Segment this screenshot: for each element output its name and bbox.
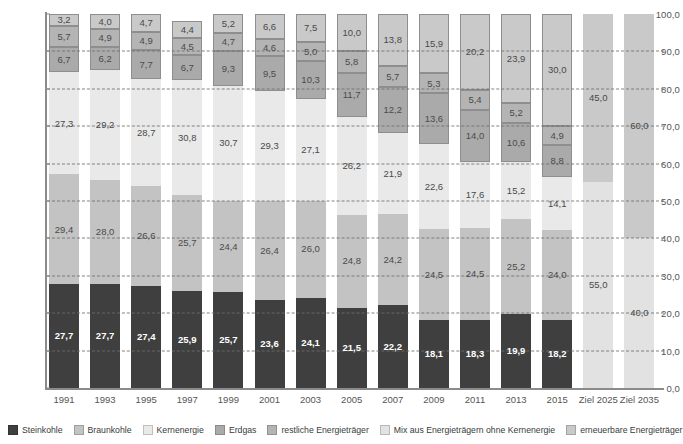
bar-segment-value: 14,0 [466, 131, 485, 141]
bar-segment: 5,4 [460, 90, 490, 110]
bar-segment: 29,3 [255, 91, 285, 201]
bar-segment-value: 6,2 [98, 54, 111, 64]
bar-segment: 25,2 [501, 219, 531, 313]
bar-segment: 13,6 [419, 93, 449, 144]
bar-segment: 9,5 [255, 56, 285, 92]
bar-segment-value: 5,2 [509, 108, 522, 118]
bar-segment: 29,4 [49, 174, 79, 284]
bar-segment-value: 18,2 [548, 349, 567, 359]
bar-segment-value: 13,6 [425, 114, 444, 124]
bar-segment-value: 7,5 [304, 23, 317, 33]
bar-segment-value: 25,9 [178, 335, 197, 345]
bar-segment: 4,7 [131, 14, 161, 32]
bar-segment: 8,8 [542, 145, 572, 178]
bar-segment: 14,1 [542, 177, 572, 230]
bar-segment-value: 29,2 [96, 120, 115, 130]
bar-segment-value: 15,2 [507, 186, 526, 196]
bar-segment-value: 24,0 [548, 270, 567, 280]
legend-swatch-icon [8, 425, 18, 435]
bar-segment: 5,2 [501, 103, 531, 122]
bar-segment-value: 20,2 [466, 47, 485, 57]
bar-segment-value: 28,7 [137, 128, 156, 138]
bar-segment-value: 22,2 [384, 342, 403, 352]
bar-segment: 24,5 [460, 228, 490, 320]
bar-segment: 24,8 [337, 215, 367, 308]
bar-segment-value: 4,0 [98, 17, 111, 27]
bar-segment: 27,1 [296, 99, 326, 200]
bar-segment: 15,9 [419, 14, 449, 73]
bar-segment: 10,0 [337, 14, 367, 51]
bar-segment: 10,3 [296, 61, 326, 100]
bar-segment-value: 23,9 [507, 54, 526, 64]
bar-segment-value: 4,7 [140, 18, 153, 28]
bar-segment: 13,8 [378, 14, 408, 66]
y-axis-tick-mark [45, 388, 50, 389]
bar-segment: 25,7 [172, 195, 202, 291]
y-axis-tick-label: 100,0 [640, 9, 680, 20]
bar-segment-value: 27,3 [55, 119, 74, 129]
bar-segment-value: 18,1 [425, 349, 444, 359]
bar-segment: 27,4 [131, 286, 161, 388]
bar-segment-value: 9,5 [263, 69, 276, 79]
bar-segment-value: 40,0 [630, 308, 649, 318]
bar-segment-value: 6,7 [181, 63, 194, 73]
bar-segment-value: 24,1 [301, 338, 320, 348]
bar-segment: 6,7 [172, 55, 202, 80]
bar-segment-value: 5,7 [386, 72, 399, 82]
bar-segment: 55,0 [583, 182, 613, 388]
bar-segment-value: 4,7 [222, 37, 235, 47]
bar-segment: 5,7 [378, 66, 408, 87]
legend-swatch-icon [267, 425, 277, 435]
legend-item: Braunkohle [74, 425, 132, 435]
bar-segment: 5,2 [213, 14, 243, 33]
x-axis-line [45, 388, 664, 390]
bar-segment: 17,6 [460, 162, 490, 228]
y-axis-tick-mark [45, 14, 50, 15]
bar-segment-value: 3,2 [57, 15, 70, 25]
bar-segment: 3,2 [49, 14, 79, 26]
bar-segment-value: 24,8 [342, 256, 361, 266]
bar-segment-value: 27,4 [137, 332, 156, 342]
bar-segment-value: 27,7 [96, 331, 115, 341]
legend-swatch-icon [566, 425, 576, 435]
bar-segment: 4,0 [90, 14, 120, 29]
legend-item-label: Mix aus Energieträgern ohne Kernenergie [394, 425, 555, 435]
bar-segment-value: 27,1 [301, 145, 320, 155]
bar-segment-value: 25,7 [178, 238, 197, 248]
bar-segment-value: 45,0 [589, 93, 608, 103]
bar-segment-value: 26,4 [260, 246, 279, 256]
bar-segment-value: 12,2 [384, 105, 403, 115]
bar-segment-value: 17,6 [466, 190, 485, 200]
gridline [47, 201, 664, 202]
bar-segment: 4,9 [542, 126, 572, 144]
bar-segment-value: 21,9 [384, 169, 403, 179]
bar-segment: 7,5 [296, 14, 326, 42]
bar-segment: 26,4 [255, 201, 285, 300]
bar-segment-value: 26,6 [137, 231, 156, 241]
bar-segment-value: 26,2 [342, 161, 361, 171]
bar-segment: 4,9 [131, 32, 161, 50]
legend-item-label: Steinkohle [22, 425, 63, 435]
bar-segment-value: 28,0 [96, 227, 115, 237]
bar-segment: 22,2 [378, 305, 408, 388]
bar-segment: 30,8 [172, 80, 202, 195]
bar-segment: 10,6 [501, 123, 531, 163]
bar-segment: 25,9 [172, 291, 202, 388]
bar-segment: 45,0 [583, 14, 613, 182]
bar-segment-value: 11,7 [343, 90, 361, 100]
bar-segment-value: 4,6 [263, 43, 276, 53]
bar-segment-value: 24,5 [466, 269, 485, 279]
bar-segment-value: 5,8 [345, 57, 358, 67]
legend-swatch-icon [380, 425, 390, 435]
bar-segment-value: 23,6 [260, 339, 279, 349]
x-axis-tick-label: Ziel 2035 [613, 394, 665, 405]
bar-segment: 18,3 [460, 320, 490, 388]
bar-segment-value: 5,4 [468, 95, 481, 105]
bar-segment: 26,0 [296, 201, 326, 298]
bar-segment: 5,3 [419, 73, 449, 93]
bar-segment-value: 24,2 [384, 255, 403, 265]
legend-item-label: erneuerbare Energieträger [580, 425, 682, 435]
bar-segment: 24,4 [213, 201, 243, 292]
legend-item: Steinkohle [8, 425, 63, 435]
